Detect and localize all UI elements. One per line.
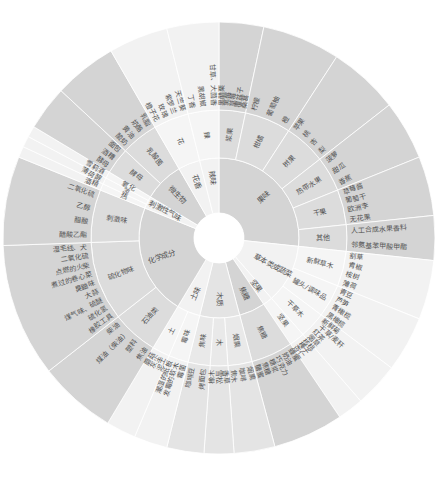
leaf-label: 甘草、大茴香 — [208, 64, 219, 106]
category-label: 辣味 — [207, 170, 219, 186]
leaf-label: 醋酸 — [74, 215, 89, 226]
subcategory-label: 浆果 — [224, 127, 234, 142]
leaf-label: 醋酸乙酯 — [59, 230, 87, 240]
subcategory-label: 木 — [215, 339, 224, 346]
subcategory-label: 辣 — [202, 131, 212, 139]
subcategory-label: 其他 — [316, 233, 330, 242]
center-hole — [194, 213, 244, 263]
aroma-wheel-chart: 果味浆果黑醋栗黑莓草莓覆盆子桑葚柑橘柠檬葡萄柚橙树果苹果桃杏梨热带水果菠萝甜瓜香… — [0, 0, 438, 480]
category-label: 木质 — [215, 291, 225, 306]
leaf-label: 橡木 — [207, 370, 217, 384]
